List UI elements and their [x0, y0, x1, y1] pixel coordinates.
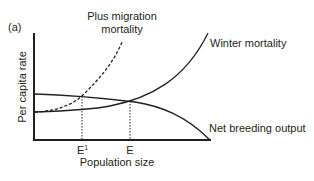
- migration-mortality-curve: [35, 42, 122, 112]
- diagram: (a) Per capita rate Population size Plus…: [0, 0, 314, 181]
- net-breeding-output-label: Net breeding output: [209, 122, 306, 134]
- migration-label-line2: mortality: [101, 23, 143, 35]
- winter-mortality-label: Winter mortality: [210, 37, 287, 49]
- y-axis-label: Per capita rate: [16, 51, 28, 123]
- migration-label-line1: Plus migration: [87, 10, 157, 22]
- panel-label: (a): [8, 21, 21, 33]
- e1-marker-label: E1: [77, 144, 88, 156]
- x-axis-label: Population size: [80, 156, 155, 168]
- e-marker-label: E: [126, 144, 133, 156]
- net-breeding-output-curve: [35, 94, 210, 140]
